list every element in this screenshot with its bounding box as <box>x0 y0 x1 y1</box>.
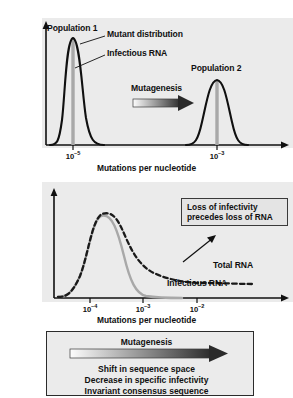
mutagenesis-arrow-bottom <box>70 345 228 362</box>
bottom-arrow-graphics <box>0 0 293 398</box>
bottom-line-1: Shift in sequence space <box>0 364 293 374</box>
figure-root: Population 1 Mutant distribution Infecti… <box>0 0 293 398</box>
bottom-line-2: Decrease in specific infectivity <box>0 375 293 385</box>
bottom-line-3: Invariant consensus sequence <box>0 386 293 396</box>
